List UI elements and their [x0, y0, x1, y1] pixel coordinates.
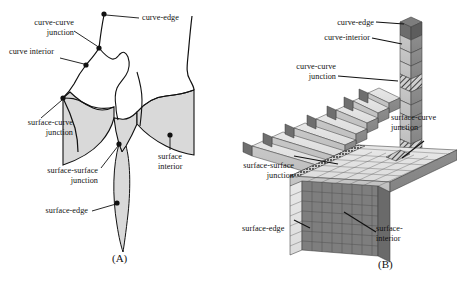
surface-region-right [137, 90, 194, 155]
node-curve-interior [83, 62, 88, 67]
panel-b-drawing [228, 0, 457, 293]
surface-spike-tail [114, 144, 130, 252]
wall-left-edge-column [290, 181, 302, 255]
figure-root: curve-curve junction curve-edge curve in… [0, 0, 457, 293]
leader-curve-curve-junction [338, 76, 398, 81]
leader-curve-interior [60, 58, 84, 64]
panel-a-caption: (A) [112, 252, 127, 264]
node-curve-edge-top [101, 11, 106, 16]
leader-curve-edge [106, 15, 139, 18]
panel-a-drawing [0, 0, 228, 293]
label-surface-surface-junction: surface-surface junction [228, 161, 294, 180]
node-surface-curve-junction [60, 95, 65, 100]
curve-upper-left [99, 15, 104, 48]
label-surface-interior: surface interior [158, 152, 183, 171]
curve-edge-right [187, 16, 194, 90]
label-curve-edge: curve-edge [262, 18, 374, 28]
leader-surface-curve-junction [41, 100, 62, 118]
node-curve-curve-junction [96, 45, 101, 50]
voxel-curve-pillar [400, 17, 422, 157]
label-surface-edge: surface-edge [242, 224, 284, 234]
voxel-vertical-wall [290, 181, 390, 262]
curve-mid-left [63, 48, 99, 98]
label-curve-curve-junction: curve-curve junction [242, 62, 336, 81]
panel-a: curve-curve junction curve-edge curve in… [0, 0, 228, 293]
node-surface-interior [167, 132, 172, 137]
label-curve-interior: curve-interior [248, 33, 370, 43]
panel-b: curve-edge curve-interior curve-curve ju… [228, 0, 457, 293]
label-surface-curve-junction: surface-curve junction [391, 113, 436, 132]
label-surface-curve-junction: surface-curve junction [0, 118, 73, 137]
node-surface-surface-junction [116, 141, 121, 146]
leader-surface-edge [92, 204, 116, 211]
panel-b-caption: (B) [378, 258, 393, 270]
label-curve-curve-junction: curve-curve junction [6, 18, 74, 37]
label-curve-interior: curve interior [9, 47, 54, 57]
leader-curve-curve-junction [74, 31, 97, 46]
label-surface-surface-junction: surface-surface junction [10, 166, 98, 185]
label-curve-edge: curve-edge [142, 13, 179, 23]
label-surface-edge: surface-edge [14, 206, 88, 216]
label-surface-interior: surface- interior [376, 224, 403, 243]
voxel-curve-interior-stack [400, 35, 422, 157]
node-surface-edge [114, 200, 119, 205]
wall-front-face [302, 181, 378, 256]
leader-curve-interior [372, 38, 402, 44]
